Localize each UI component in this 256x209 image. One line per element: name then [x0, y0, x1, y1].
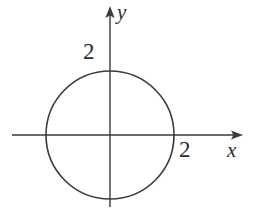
coordinate-plane-graphic [0, 0, 256, 209]
y-axis-label: y [117, 2, 126, 23]
x-axis-tick-label-2: 2 [179, 138, 191, 161]
y-axis-tick-label-2: 2 [83, 40, 95, 63]
x-axis-label: x [227, 140, 236, 161]
figure-canvas: 2 2 y x [0, 0, 256, 209]
